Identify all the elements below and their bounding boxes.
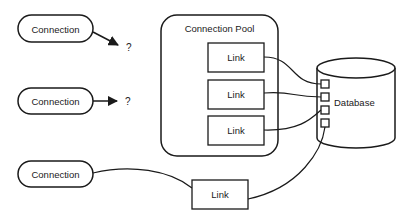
pool-link-3: Link <box>208 116 264 145</box>
svg-text:Connection: Connection <box>31 96 79 107</box>
wire-connection-3-to-link <box>93 169 192 188</box>
svg-text:Link: Link <box>211 189 229 200</box>
unknown-target-2: ? <box>125 96 131 107</box>
pool-title: Connection Pool <box>185 23 255 34</box>
svg-text:Connection: Connection <box>31 24 79 35</box>
pool-link-2: Link <box>208 80 264 109</box>
db-port-3 <box>321 106 329 114</box>
external-link: Link <box>192 180 248 209</box>
db-port-1 <box>321 80 329 88</box>
pool-link-1: Link <box>208 43 264 72</box>
database-label: Database <box>334 97 375 108</box>
connection-node-1: Connection <box>18 15 93 42</box>
svg-text:Link: Link <box>227 52 245 63</box>
svg-text:Link: Link <box>227 89 245 100</box>
connection-node-2: Connection <box>18 88 93 114</box>
unknown-target-1: ? <box>126 42 132 53</box>
arrow-connection-1 <box>93 32 118 45</box>
db-port-2 <box>321 93 329 101</box>
connection-pool-diagram: Connection ? Connection ? Connection Con… <box>0 0 401 219</box>
connection-node-3: Connection <box>18 161 93 187</box>
svg-text:Link: Link <box>227 125 245 136</box>
connection-pool: Connection Pool Link Link Link <box>161 15 278 156</box>
database-cylinder: Database <box>317 58 395 148</box>
svg-text:Connection: Connection <box>31 169 79 180</box>
db-port-4 <box>321 119 329 127</box>
